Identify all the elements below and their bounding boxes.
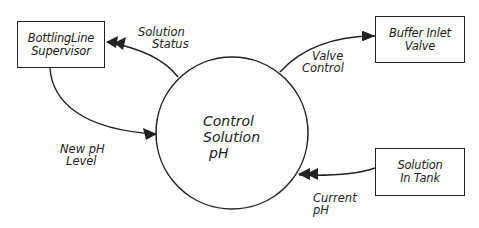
flow-label-line: Control [302,62,344,74]
flow-label-line: pH [313,204,357,216]
flow-label-valve-control: Valve Control [302,50,344,74]
process-label: Control Solution pH [203,113,260,161]
flow-label-line: Status [138,38,189,50]
flow-line [50,68,157,134]
process-label-line: Control [203,113,260,129]
flow-current-ph [298,168,375,180]
flow-label-solution-status: Solution Status [138,26,189,50]
entity-bottling-line-supervisor: BottlingLine Supervisor [17,21,105,68]
entity-label: Valve [405,40,435,53]
process-label-line: Solution [203,129,260,145]
entity-label: In Tank [400,172,440,185]
flow-new-ph-level [50,68,157,140]
arrowhead-icon [363,31,375,41]
flow-label-current-ph: Current pH [313,192,357,216]
flow-label-line: Level [60,155,105,167]
arrowhead-icon [143,128,157,140]
entity-label: Buffer Inlet [389,27,451,40]
flow-label-new-ph-level: New pH Level [60,143,105,167]
entity-label: BottlingLine [28,32,95,45]
entity-solution-in-tank: Solution In Tank [375,148,465,196]
entity-buffer-inlet-valve: Buffer Inlet Valve [375,16,465,63]
process-label-line: pH [203,145,260,161]
entity-label: Supervisor [31,45,90,58]
